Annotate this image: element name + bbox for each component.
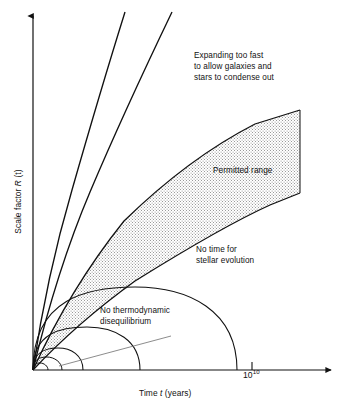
x-axis-label-suffix: (years) (162, 388, 191, 398)
scale-factor-figure: Expanding too fast to allow galaxies and… (0, 0, 349, 414)
x-axis-tick-mantissa: 10 (243, 370, 253, 380)
annotation-no-time-for-stellar-evolution: No time for stellar evolution (196, 244, 254, 266)
plot-area (0, 0, 349, 414)
annotation-expanding-too-fast: Expanding too fast to allow galaxies and… (194, 50, 274, 84)
y-axis-label-prefix: Scale factor (13, 186, 23, 234)
y-axis-label: Scale factor R (t) (13, 147, 24, 257)
x-axis-label: Time t (years) (139, 388, 191, 399)
x-axis-tick-exponent: 10 (253, 368, 260, 375)
x-axis-label-prefix: Time (139, 388, 160, 398)
annotation-no-thermodynamic-disequilibrium: No thermodynamic disequilibrium (100, 305, 170, 327)
x-axis-tick-label: 1010 (243, 370, 260, 381)
y-axis-label-variable: R (13, 180, 23, 186)
annotation-permitted-range: Permitted range (213, 165, 272, 176)
y-axis-label-suffix: (t) (13, 169, 23, 180)
leader-line-no-thermodynamic (59, 336, 171, 366)
